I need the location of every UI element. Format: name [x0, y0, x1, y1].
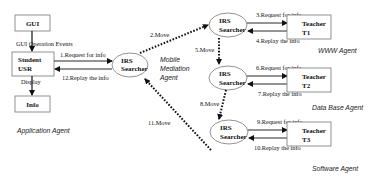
searcher-sw-line2: Searcher	[220, 133, 247, 141]
info-label: Info	[26, 101, 39, 109]
agent-architecture-diagram: GUI GUI Operation Events Student USR Dis…	[0, 0, 384, 185]
replay-12-label: 12.Replay the info	[62, 74, 109, 81]
student-usr-node: Student USR	[12, 52, 54, 76]
searcher-www-line2: Searcher	[219, 26, 246, 34]
info-node: Info	[15, 96, 50, 112]
searcher-mobile-line2: Searcher	[121, 65, 148, 73]
gui-node: GUI	[15, 15, 50, 31]
display-label: Display	[21, 78, 41, 85]
application-agent-label: Application Agent	[16, 127, 71, 135]
gui-label: GUI	[26, 20, 40, 28]
request-1-label: 1.Request for info	[60, 51, 106, 58]
teacher-t3-node: Teacher T3	[287, 122, 331, 146]
mobile-agent-label-line1: Mobile	[160, 56, 180, 63]
teacher-t1-node: Teacher T1	[287, 15, 331, 39]
move-11-label: 11.Move	[148, 119, 171, 126]
teacher3-line1: Teacher	[302, 127, 326, 135]
software-agent-label: Software Agent	[312, 165, 359, 173]
searcher-mobile-line1: IRS	[121, 57, 133, 65]
student-label-line1: Student	[18, 56, 42, 64]
irs-searcher-software-node: IRS Searcher	[210, 120, 248, 144]
www-agent-label: WWW Agent	[318, 47, 358, 55]
searcher-db-line2: Searcher	[219, 79, 246, 87]
searcher-sw-line1: IRS	[220, 124, 232, 132]
database-agent-label: Data Base Agent	[312, 104, 364, 112]
move-5-label: 5.Move	[195, 46, 215, 53]
searcher-db-line1: IRS	[219, 70, 231, 78]
teacher2-line1: Teacher	[302, 73, 326, 81]
searcher-www-line1: IRS	[219, 17, 231, 25]
teacher-t2-node: Teacher T2	[287, 68, 331, 92]
mobile-agent-label-line3: Agent	[159, 74, 179, 82]
move-2-label: 2.Move	[150, 31, 170, 38]
gui-events-label: GUI Operation Events	[16, 40, 73, 47]
teacher1-line2: T1	[302, 29, 311, 37]
irs-searcher-db-node: IRS Searcher	[209, 66, 247, 90]
mobile-agent-label-line2: Mediation	[160, 65, 190, 72]
teacher2-line2: T2	[302, 82, 311, 90]
teacher3-line2: T3	[302, 136, 311, 144]
move-8-label: 8.Move	[200, 100, 220, 107]
student-label-line2: USR	[18, 65, 33, 73]
irs-searcher-www-node: IRS Searcher	[209, 13, 247, 37]
teacher1-line1: Teacher	[302, 20, 326, 28]
move-8-arrow	[219, 90, 226, 119]
irs-searcher-mobile-node: IRS Searcher	[112, 53, 148, 77]
move-11-arrow	[145, 79, 211, 150]
